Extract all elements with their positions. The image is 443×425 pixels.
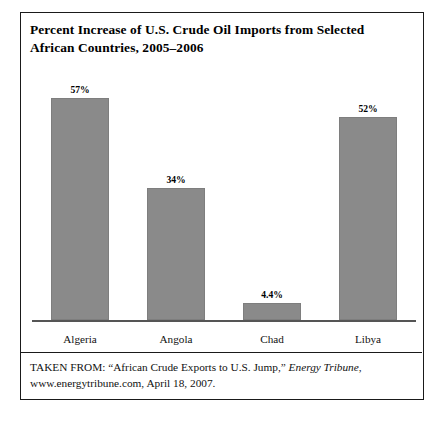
chart-title-block: Percent Increase of U.S. Crude Oil Impor… — [30, 21, 416, 56]
source-suffix: , — [359, 361, 362, 373]
source-prefix: TAKEN FROM: “African Crude Exports to U.… — [30, 361, 289, 373]
bar-angola — [147, 188, 205, 320]
axis-label-angola: Angola — [133, 333, 219, 345]
source-citation: TAKEN FROM: “African Crude Exports to U.… — [30, 360, 415, 391]
bar-group-chad: 4.4% — [229, 80, 315, 320]
axis-label-libya: Libya — [325, 333, 411, 345]
source-publication-name: Energy Tribune — [289, 361, 359, 373]
x-axis-tick-labels: Algeria Angola Chad Libya — [32, 333, 416, 345]
source-url-date: www.energytribune.com, April 18, 2007. — [30, 377, 215, 389]
bar-value-label: 34% — [166, 174, 185, 185]
chart-plot-area: 57% 34% 4.4% 52% Algeria Angola Chad Lib… — [21, 69, 422, 351]
bar-group-angola: 34% — [133, 80, 219, 320]
axis-label-algeria: Algeria — [37, 333, 123, 345]
figure-frame: Percent Increase of U.S. Crude Oil Impor… — [20, 12, 424, 400]
axis-label-chad: Chad — [229, 333, 315, 345]
bar-value-label: 52% — [358, 103, 377, 114]
bar-algeria — [51, 98, 109, 320]
bar-group-algeria: 57% — [37, 80, 123, 320]
source-block: TAKEN FROM: “African Crude Exports to U.… — [30, 360, 415, 391]
bar-series: 57% 34% 4.4% 52% — [32, 80, 416, 320]
bar-chad — [243, 303, 301, 320]
x-axis-line — [32, 320, 416, 322]
source-divider — [21, 352, 422, 353]
bar-libya — [339, 117, 397, 320]
bar-group-libya: 52% — [325, 80, 411, 320]
page-title: Percent Increase of U.S. Crude Oil Impor… — [30, 21, 416, 56]
bar-value-label: 4.4% — [261, 289, 283, 300]
bar-value-label: 57% — [70, 84, 89, 95]
chart-title-line-2: African Countries, 2005–2006 — [30, 40, 204, 55]
chart-title-line-1: Percent Increase of U.S. Crude Oil Impor… — [30, 22, 364, 37]
